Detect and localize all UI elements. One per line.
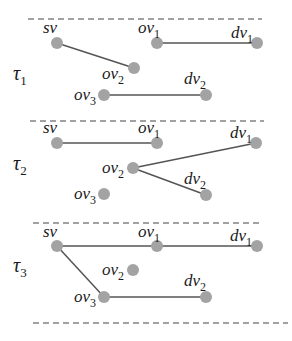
node-ov3	[98, 291, 110, 303]
node-ov3	[98, 89, 110, 101]
node-label-ov3: ov3	[74, 287, 96, 310]
node-label-ov2: ov2	[102, 260, 124, 283]
node-label-ov1: ov1	[138, 222, 160, 245]
node-sv	[51, 240, 63, 252]
edge-ov2-dv1	[133, 143, 256, 168]
panels: svov1dv1ov2ov3dv2τ1svov1dv1ov2ov3dv2τ2sv…	[13, 18, 263, 310]
node-label-dv2: dv2	[184, 271, 206, 294]
node-sv	[51, 137, 63, 149]
panel-label-tau2: τ2	[13, 152, 27, 178]
node-label-dv2: dv2	[184, 69, 206, 92]
node-label-ov3: ov3	[74, 85, 96, 108]
panel-dividers	[28, 19, 288, 323]
node-dv1	[251, 240, 263, 252]
node-label-ov2: ov2	[102, 64, 124, 87]
edge-sv-ov2	[57, 43, 134, 68]
node-label-sv: sv	[43, 222, 58, 241]
node-label-sv: sv	[43, 18, 58, 37]
node-ov3	[98, 188, 110, 200]
node-sv	[51, 37, 63, 49]
panel-label-tau1: τ1	[13, 62, 27, 88]
node-ov2	[128, 62, 140, 74]
panel-tau2: svov1dv1ov2ov3dv2τ2	[13, 118, 262, 207]
node-label-ov1: ov1	[138, 18, 160, 41]
node-label-ov2: ov2	[102, 158, 124, 181]
node-label-ov3: ov3	[74, 184, 96, 207]
node-label-ov1: ov1	[138, 118, 160, 141]
panel-label-tau3: τ3	[13, 254, 27, 280]
node-label-dv1: dv1	[230, 123, 252, 146]
trajectory-diagram: svov1dv1ov2ov3dv2τ1svov1dv1ov2ov3dv2τ2sv…	[0, 0, 292, 341]
panel-tau1: svov1dv1ov2ov3dv2τ1	[13, 18, 263, 108]
node-ov2	[127, 162, 139, 174]
node-label-sv: sv	[43, 118, 58, 137]
panel-tau3: svov1dv1ov2ov3dv2τ3	[13, 222, 263, 310]
node-ov2	[127, 264, 139, 276]
